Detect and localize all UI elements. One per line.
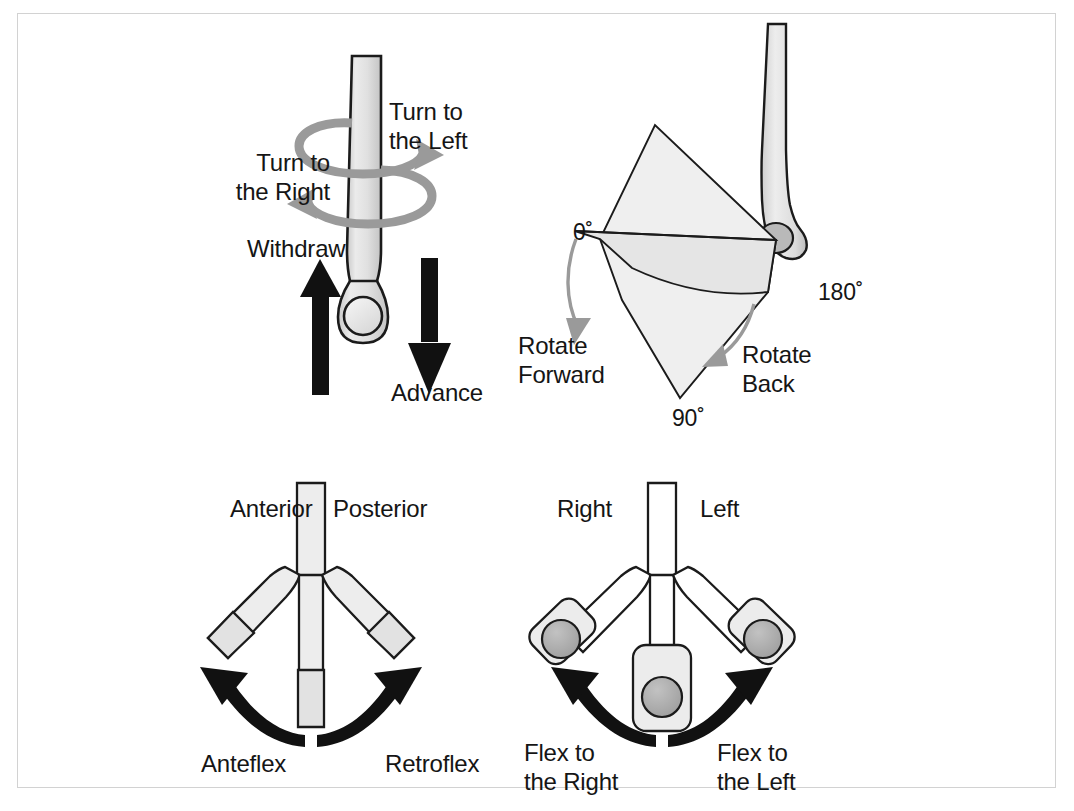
label-angle-0: 0˚ [573, 218, 593, 247]
label-turn-to-the-right: Turn to the Right [185, 148, 330, 206]
figure-root: Turn to the Left Turn to the Right Withd… [0, 0, 1074, 811]
label-rotate-forward: Rotate Forward [518, 331, 605, 389]
label-rotate-back: Rotate Back [742, 340, 812, 398]
label-retroflex: Retroflex [385, 749, 479, 778]
label-flex-to-the-right: Flex to the Right [524, 738, 618, 796]
label-left: Left [700, 494, 739, 523]
label-posterior: Posterior [333, 494, 427, 523]
label-angle-90: 90˚ [672, 404, 705, 433]
label-advance: Advance [391, 378, 483, 407]
label-withdraw: Withdraw [247, 234, 345, 263]
figure-border-frame [17, 13, 1056, 788]
label-anterior: Anterior [230, 494, 312, 523]
label-flex-to-the-left: Flex to the Left [717, 738, 795, 796]
label-anteflex: Anteflex [201, 749, 286, 778]
label-turn-to-the-left: Turn to the Left [389, 97, 467, 155]
label-angle-180: 180˚ [818, 278, 863, 307]
label-right: Right [557, 494, 612, 523]
